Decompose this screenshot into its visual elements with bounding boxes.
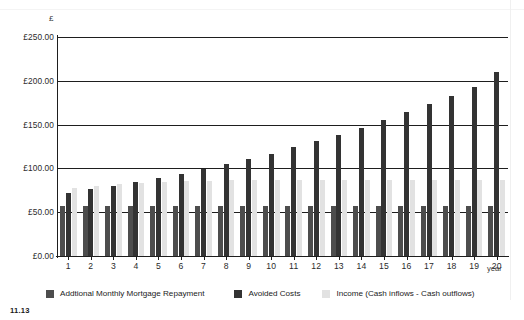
- bar: [275, 180, 280, 256]
- x-axis-tick: [474, 256, 475, 260]
- x-axis-tick-label: 15: [379, 261, 389, 271]
- x-axis-tick: [384, 256, 385, 260]
- x-axis-tick: [249, 256, 250, 260]
- gridline: [57, 125, 508, 126]
- page-edge-top: [0, 9, 524, 10]
- bar: [269, 154, 274, 256]
- x-axis-tick: [91, 256, 92, 260]
- x-axis-tick: [497, 256, 498, 260]
- bar-group: [218, 37, 235, 256]
- x-axis-tick-label: 19: [469, 261, 479, 271]
- bar: [156, 178, 161, 256]
- x-axis-tick: [136, 256, 137, 260]
- chart-legend: Addtional Monthly Mortgage Repayment Avo…: [46, 289, 475, 298]
- bar: [195, 206, 200, 256]
- legend-label-1: Avoided Costs: [248, 289, 300, 298]
- bar-group: [353, 37, 370, 256]
- x-axis-tick-label: 6: [179, 261, 184, 271]
- x-axis-tick: [429, 256, 430, 260]
- x-axis-tick-label: 8: [224, 261, 229, 271]
- bar: [427, 104, 432, 256]
- x-axis-tick-label: 12: [311, 261, 321, 271]
- bar: [488, 206, 493, 256]
- gridline: [57, 37, 508, 38]
- bar: [224, 164, 229, 256]
- bar: [66, 193, 71, 256]
- figure-container: £ £0.00£50.00£100.00£150.00£200.00£250.0…: [0, 0, 524, 320]
- bar: [320, 180, 325, 256]
- bar: [477, 180, 482, 256]
- legend-item-0: Addtional Monthly Mortgage Repayment: [46, 289, 204, 298]
- bar-group: [105, 37, 122, 256]
- legend-item-1: Avoided Costs: [234, 289, 300, 298]
- bar: [162, 182, 167, 256]
- bar: [291, 147, 296, 256]
- x-axis-tick: [113, 256, 114, 260]
- x-axis-tick-label: 16: [402, 261, 412, 271]
- bar: [60, 206, 65, 256]
- x-axis-tick: [407, 256, 408, 260]
- bar: [308, 206, 313, 256]
- bar: [410, 180, 415, 256]
- x-axis-tick-label: 14: [356, 261, 366, 271]
- x-axis-tick: [294, 256, 295, 260]
- bar: [263, 206, 268, 256]
- bar-group: [173, 37, 190, 256]
- bar: [218, 206, 223, 256]
- bar-group: [421, 37, 438, 256]
- x-axis-tick: [316, 256, 317, 260]
- bar: [387, 180, 392, 256]
- legend-swatch-icon: [46, 290, 54, 298]
- bar: [94, 186, 99, 256]
- bar-group: [331, 37, 348, 256]
- bar: [449, 96, 454, 256]
- bar: [455, 180, 460, 256]
- bar: [404, 112, 409, 256]
- x-axis-tick: [204, 256, 205, 260]
- bar: [500, 180, 505, 256]
- bar: [246, 159, 251, 256]
- x-axis-tick: [181, 256, 182, 260]
- bar-group: [488, 37, 505, 256]
- x-axis-tick: [452, 256, 453, 260]
- bar-group: [150, 37, 167, 256]
- bar: [432, 180, 437, 256]
- bar-group: [60, 37, 77, 256]
- bar-group: [195, 37, 212, 256]
- x-axis-title: year: [487, 264, 502, 273]
- bar: [331, 206, 336, 256]
- x-axis-tick: [339, 256, 340, 260]
- x-axis-tick-label: 4: [133, 261, 138, 271]
- bar: [398, 206, 403, 256]
- bar: [128, 206, 133, 256]
- legend-item-2: Income (Cash inflows - Cash outflows): [322, 289, 474, 298]
- bar: [353, 206, 358, 256]
- x-axis-tick: [361, 256, 362, 260]
- x-axis-tick-label: 7: [201, 261, 206, 271]
- y-axis-tick-label: £50.00: [28, 207, 54, 217]
- bar: [421, 206, 426, 256]
- bar-group: [466, 37, 483, 256]
- bar-group: [128, 37, 145, 256]
- bar: [314, 141, 319, 256]
- gridline: [57, 168, 508, 169]
- x-axis-tick-label: 5: [156, 261, 161, 271]
- bar: [83, 206, 88, 256]
- gridline: [57, 81, 508, 82]
- bar: [494, 72, 499, 256]
- bar: [443, 206, 448, 256]
- y-axis-tick-label: £150.00: [23, 120, 54, 130]
- bar: [133, 182, 138, 256]
- bar: [285, 206, 290, 256]
- x-axis-tick: [271, 256, 272, 260]
- bar: [336, 135, 341, 256]
- bar: [240, 206, 245, 256]
- bar: [229, 180, 234, 256]
- bar: [111, 186, 116, 256]
- bar-group: [443, 37, 460, 256]
- y-axis-tick-label: £0.00: [33, 251, 54, 261]
- bar: [201, 169, 206, 256]
- bar-group: [285, 37, 302, 256]
- plot-area: [57, 37, 508, 256]
- y-axis-tick-label: £200.00: [23, 76, 54, 86]
